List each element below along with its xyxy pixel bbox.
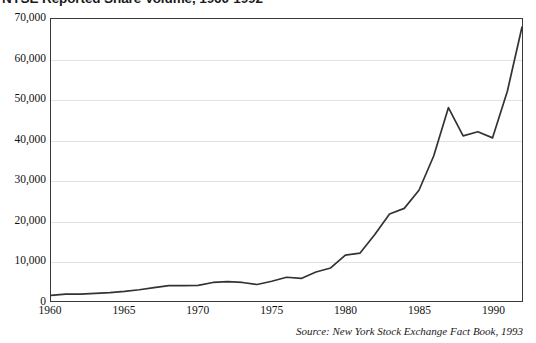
plot-area	[50, 18, 523, 302]
x-tick-label: 1975	[260, 305, 283, 317]
y-tick-label: 40,000	[0, 134, 46, 146]
chart-figure: NYSE Reported Share Volume, 1960-1992 01…	[0, 0, 536, 343]
series-line-chart	[51, 19, 522, 301]
x-tick-label: 1990	[482, 305, 505, 317]
x-tick-label: 1960	[39, 305, 62, 317]
x-axis: 1960196519701975198019851990	[0, 305, 536, 323]
y-tick-label: 20,000	[0, 215, 46, 227]
y-tick-label: 30,000	[0, 174, 46, 186]
x-tick-label: 1970	[186, 305, 209, 317]
y-tick-label: 70,000	[0, 12, 46, 24]
y-tick-label: 60,000	[0, 53, 46, 65]
y-tick-label: 10,000	[0, 255, 46, 267]
y-tick-label: 50,000	[0, 93, 46, 105]
x-tick-label: 1985	[408, 305, 431, 317]
series-line	[51, 27, 522, 295]
source-note: Source: New York Stock Exchange Fact Boo…	[296, 325, 523, 337]
x-tick-label: 1965	[112, 305, 135, 317]
y-axis: 010,00020,00030,00040,00050,00060,00070,…	[0, 0, 46, 343]
x-tick-label: 1980	[334, 305, 357, 317]
